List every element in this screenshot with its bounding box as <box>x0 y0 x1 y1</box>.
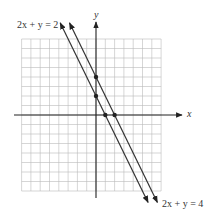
x-axis-label: x <box>187 108 191 119</box>
line-1 <box>60 23 148 203</box>
line-2 <box>69 23 157 203</box>
coordinate-graph <box>0 0 210 222</box>
line2-label: 2x + y = 4 <box>162 198 203 209</box>
y-axis-label: y <box>94 9 98 20</box>
line1-label: 2x + y = 2 <box>17 19 58 30</box>
point-marker <box>94 94 98 98</box>
plotted-lines <box>60 23 157 203</box>
point-marker <box>103 113 107 117</box>
point-marker <box>112 113 116 117</box>
point-marker <box>94 75 98 79</box>
